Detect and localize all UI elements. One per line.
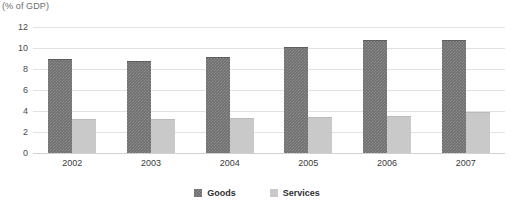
bar-group-2004 — [190, 27, 269, 153]
gridline-0 — [33, 153, 505, 154]
y-tick-label-2: 2 — [4, 127, 28, 137]
x-tick-label-2002: 2002 — [33, 158, 112, 168]
bar-goods-2003[interactable] — [127, 61, 151, 153]
x-tick-label-2003: 2003 — [112, 158, 191, 168]
x-tick-label-2006: 2006 — [348, 158, 427, 168]
x-tick-label-2005: 2005 — [269, 158, 348, 168]
bar-chart: (% of GDP) 121086420 2002200320042005200… — [0, 0, 514, 210]
bar-services-2003[interactable] — [151, 119, 175, 153]
legend-item-services[interactable]: Services — [270, 188, 320, 198]
x-tick-label-2004: 2004 — [190, 158, 269, 168]
bar-group-2005 — [269, 27, 348, 153]
bar-services-2006[interactable] — [387, 116, 411, 153]
bar-services-2002[interactable] — [72, 119, 96, 153]
bar-goods-2004[interactable] — [206, 57, 230, 153]
legend-swatch-icon-goods — [194, 189, 202, 197]
y-tick-label-4: 4 — [4, 106, 28, 116]
bar-goods-2005[interactable] — [284, 47, 308, 153]
bar-services-2005[interactable] — [308, 117, 332, 153]
legend-label-services: Services — [283, 188, 320, 198]
y-tick-label-12: 12 — [4, 22, 28, 32]
bar-group-2007 — [426, 27, 505, 153]
legend-swatch-icon-services — [270, 189, 278, 197]
bar-services-2007[interactable] — [466, 112, 490, 153]
y-tick-label-8: 8 — [4, 64, 28, 74]
unit-caption: (% of GDP) — [2, 1, 49, 11]
bar-group-2006 — [348, 27, 427, 153]
bar-group-2002 — [33, 27, 112, 153]
bar-goods-2006[interactable] — [363, 40, 387, 153]
bar-services-2004[interactable] — [230, 118, 254, 153]
chart-legend: GoodsServices — [0, 188, 514, 198]
y-axis: 121086420 — [0, 27, 28, 153]
bar-group-2003 — [112, 27, 191, 153]
x-tick-label-2007: 2007 — [426, 158, 505, 168]
bar-goods-2002[interactable] — [48, 59, 72, 154]
legend-label-goods: Goods — [207, 188, 236, 198]
legend-item-goods[interactable]: Goods — [194, 188, 236, 198]
bar-groups — [33, 27, 505, 153]
x-axis-labels: 200220032004200520062007 — [33, 158, 505, 168]
bar-goods-2007[interactable] — [442, 40, 466, 153]
y-tick-label-6: 6 — [4, 85, 28, 95]
y-tick-label-0: 0 — [4, 148, 28, 158]
y-tick-label-10: 10 — [4, 43, 28, 53]
